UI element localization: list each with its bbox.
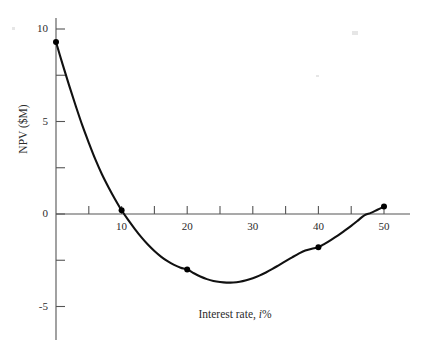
scan-speck-b [352, 31, 358, 35]
scan-speck-c [316, 75, 319, 77]
data-point-marker [53, 39, 59, 45]
data-point-marker [119, 207, 125, 213]
y-axis-title: NPV ($M) [17, 84, 29, 174]
data-point-marker [381, 204, 387, 210]
data-point-marker [184, 267, 190, 273]
chart-plot-area [0, 0, 435, 350]
npv-curve [56, 42, 384, 283]
data-point-markers [53, 39, 387, 273]
x-axis-title-suffix: % [262, 308, 272, 320]
x-axis-tick-label: 30 [233, 221, 273, 232]
axes-group [56, 18, 410, 340]
scan-speck-a [12, 27, 15, 30]
x-axis-tick-label: 40 [298, 221, 338, 232]
x-axis-tick-label: 10 [102, 221, 142, 232]
x-axis-title-prefix: Interest rate, [198, 308, 258, 320]
x-axis-title: Interest rate, i% [140, 308, 330, 320]
x-axis-ticks [89, 206, 384, 214]
npv-vs-interest-rate-chart: 1050-5 1020304050 NPV ($M) Interest rate… [0, 0, 435, 350]
x-axis-tick-label: 50 [364, 221, 404, 232]
x-axis-tick-label: 20 [167, 221, 207, 232]
data-point-marker [315, 244, 321, 250]
y-axis-tick-label: -5 [8, 301, 48, 312]
y-axis-tick-label: 0 [8, 208, 48, 219]
